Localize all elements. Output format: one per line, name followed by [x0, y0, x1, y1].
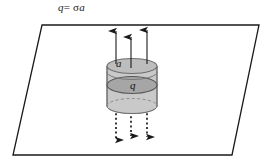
charge-label: q: [130, 79, 136, 91]
equation-label: q= σa: [58, 1, 85, 13]
equation-operator: =: [64, 1, 70, 13]
area-label: a: [116, 57, 122, 69]
equation-area-term: a: [79, 1, 85, 13]
cylinder-top-cap: [107, 59, 157, 74]
physics-figure: q= σa a q: [0, 0, 271, 166]
